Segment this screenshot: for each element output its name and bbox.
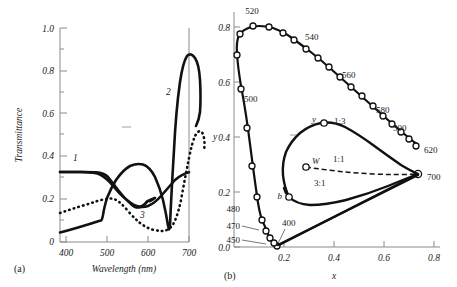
panel-a-xtick-700: 700 <box>182 248 197 258</box>
panel-a-tag: (a) <box>14 263 25 275</box>
ratio-label-3to1: 3:1 <box>314 178 326 188</box>
panel-a-ytick-08: 0.8 <box>42 66 54 76</box>
point-label-w: W <box>312 156 321 166</box>
curve-label-3: 3 <box>139 210 145 220</box>
panel-b-xtick-08: 0.8 <box>428 253 440 263</box>
curve-1-path <box>60 172 155 208</box>
wl-label-500: 500 <box>244 94 258 104</box>
panel-a-xtick-500: 500 <box>100 248 115 258</box>
curve-label-1: 1 <box>73 153 78 163</box>
wl-label-450: 450 <box>227 235 241 245</box>
spectral-locus-path <box>237 26 418 246</box>
panel-a-x-ticks <box>66 236 189 242</box>
panel-a-y-axis-title: Transmittance <box>14 108 24 162</box>
panel-b-tag: (b) <box>224 270 236 282</box>
panel-b-ytick-02: 0.2 <box>218 188 230 198</box>
panel-a-x-axis-title: Wavelength (nm) <box>92 264 156 275</box>
point-marker-y <box>321 120 327 126</box>
curve-ratio-1to1-dashed-path <box>306 167 418 175</box>
page-artifact-mark <box>122 126 131 128</box>
leader-450 <box>242 240 266 244</box>
panel-a-xtick-600: 600 <box>141 248 156 258</box>
curve-ratio-3to1-path <box>289 174 418 205</box>
panel-b-ytick-04: 0.4 <box>218 133 230 143</box>
wl-label-580: 580 <box>376 105 390 115</box>
panel-a-svg: 0 0.2 0.4 0.6 0.8 1.0 400 500 600 700 Tr… <box>0 0 228 287</box>
figure-container: 0 0.2 0.4 0.6 0.8 1.0 400 500 600 700 Tr… <box>0 0 457 287</box>
panel-a-ytick-0: 0 <box>49 237 54 247</box>
wl-label-700: 700 <box>427 172 441 182</box>
panel-b-ytick-06: 0.6 <box>218 78 230 88</box>
panel-a-xtick-400: 400 <box>59 248 74 258</box>
curve-1-dip-path <box>60 172 189 207</box>
curve-label-2: 2 <box>166 87 171 97</box>
panel-b-ytick-08: 0.8 <box>218 23 230 33</box>
panel-b-xtick-06: 0.6 <box>378 253 390 263</box>
spectral-locus-markers <box>234 23 422 249</box>
panel-b-y-axis-title: y <box>212 132 218 142</box>
wl-label-540: 540 <box>305 32 319 42</box>
panel-b-chromaticity-diagram: 0.0 0.2 0.4 0.6 0.8 0.2 0.4 0.6 0.8 x y <box>228 0 457 287</box>
panel-b-x-axis-title: x <box>331 271 337 281</box>
point-label-y: y <box>311 114 316 124</box>
wl-label-480: 480 <box>227 204 241 214</box>
ratio-label-1to1: 1:1 <box>333 154 345 164</box>
point-label-b: b <box>278 191 283 201</box>
panel-b-xtick-02: 0.2 <box>278 253 290 263</box>
point-marker-b <box>286 194 292 200</box>
curve-3-path <box>60 131 205 231</box>
panel-b-x-ticks <box>284 241 434 247</box>
wl-label-560: 560 <box>342 70 356 80</box>
point-marker-w <box>303 164 309 170</box>
panel-a-ytick-02: 0.2 <box>42 194 54 204</box>
wl-label-520: 520 <box>245 6 259 16</box>
ratio-label-1to3: 1:3 <box>334 116 346 126</box>
panel-a-ytick-10: 1.0 <box>42 24 54 34</box>
panel-b-svg: 0.0 0.2 0.4 0.6 0.8 0.2 0.4 0.6 0.8 x y <box>228 0 457 287</box>
wl-label-620: 620 <box>424 145 438 155</box>
wl-label-590: 590 <box>393 123 407 133</box>
wl-label-400: 400 <box>282 218 296 228</box>
lower-chord-path <box>278 175 418 245</box>
leader-470 <box>242 226 259 230</box>
panel-a-y-ticks <box>60 28 67 242</box>
panel-b-xtick-04: 0.4 <box>328 253 340 263</box>
panel-a-ytick-06: 0.6 <box>42 109 54 119</box>
panel-a-ytick-04: 0.4 <box>42 151 54 161</box>
panel-a-transmittance-chart: 0 0.2 0.4 0.6 0.8 1.0 400 500 600 700 Tr… <box>0 0 228 287</box>
wl-label-470: 470 <box>227 221 241 231</box>
